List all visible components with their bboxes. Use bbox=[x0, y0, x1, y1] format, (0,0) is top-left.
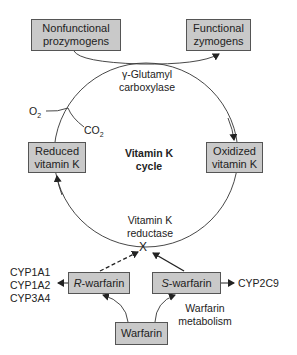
box-label: Oxidized bbox=[213, 145, 256, 157]
co2-label: CO2 bbox=[84, 124, 104, 142]
warfarin-box: Warfarin bbox=[115, 322, 168, 345]
reductase-label: Vitamin Kreductase bbox=[115, 214, 185, 239]
box-label: vitamin K bbox=[34, 158, 79, 170]
warfarin-metabolism-label: Warfarinmetabolism bbox=[175, 302, 235, 327]
box-label: -warfarin bbox=[169, 277, 212, 289]
enantiomer-prefix: S bbox=[161, 277, 168, 289]
box-label: vitamin K bbox=[212, 158, 257, 170]
box-label: Warfarin bbox=[121, 327, 162, 340]
functional-zymogens-box: Functionalzymogens bbox=[186, 19, 251, 51]
box-label: Nonfunctional bbox=[42, 22, 109, 34]
box-label: prozymogens bbox=[43, 35, 109, 47]
cycle-label: Vitamin Kcycle bbox=[114, 147, 184, 172]
box-label: Reduced bbox=[35, 145, 79, 157]
inhibition-mark: X bbox=[139, 241, 147, 254]
o2-label: O2 bbox=[29, 105, 41, 123]
oxidized-vitamin-k-box: Oxidizedvitamin K bbox=[206, 142, 263, 173]
cyp-left-list: CYP1A1CYP1A2CYP3A4 bbox=[10, 266, 50, 305]
cyp-right-label: CYP2C9 bbox=[238, 277, 279, 290]
s-warfarin-box: S-warfarin bbox=[152, 272, 221, 294]
reduced-vitamin-k-box: Reducedvitamin K bbox=[28, 142, 86, 173]
r-warfarin-box: R-warfarin bbox=[68, 272, 130, 294]
box-label: zymogens bbox=[193, 35, 243, 47]
nonfunctional-prozymogens-box: Nonfunctionalprozymogens bbox=[31, 19, 121, 51]
carboxylase-label: γ-Glutamylcarboxylase bbox=[112, 68, 182, 93]
box-label: -warfarin bbox=[82, 277, 125, 289]
box-label: Functional bbox=[193, 22, 244, 34]
enantiomer-prefix: R bbox=[74, 277, 82, 289]
